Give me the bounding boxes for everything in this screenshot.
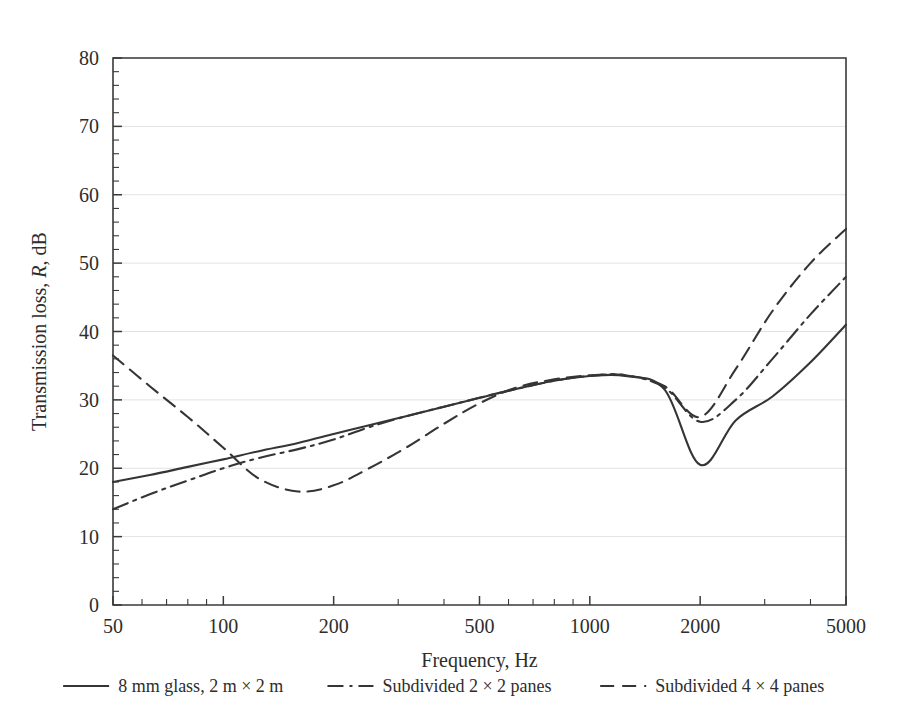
y-tick-label-10: 10 (79, 526, 99, 548)
transmission-loss-chart: 01020304050607080 5010020050010002000500… (0, 0, 902, 725)
y-tick-label-80: 80 (79, 47, 99, 69)
x-tick-label-50: 50 (103, 615, 123, 637)
x-tick-label-1000: 1000 (570, 615, 610, 637)
y-tick-label-0: 0 (89, 594, 99, 616)
y-tick-label-50: 50 (79, 252, 99, 274)
x-tick-label-200: 200 (319, 615, 349, 637)
legend-label-1: 8 mm glass, 2 m × 2 m (118, 676, 283, 696)
y-tick-label-60: 60 (79, 184, 99, 206)
x-tick-label-2000: 2000 (680, 615, 720, 637)
legend-label-2: Subdivided 2 × 2 panes (382, 676, 551, 696)
y-axis-title: Transmission loss, R, dB (28, 232, 50, 431)
y-tick-label-40: 40 (79, 321, 99, 343)
chart-legend: 8 mm glass, 2 m × 2 mSubdivided 2 × 2 pa… (63, 676, 824, 696)
x-tick-label-100: 100 (208, 615, 238, 637)
y-tick-labels: 01020304050607080 (79, 47, 99, 616)
figure-container: 01020304050607080 5010020050010002000500… (0, 0, 902, 725)
y-tick-label-20: 20 (79, 457, 99, 479)
plot-background (0, 0, 902, 725)
y-tick-label-70: 70 (79, 115, 99, 137)
x-tick-label-500: 500 (465, 615, 495, 637)
y-tick-label-30: 30 (79, 389, 99, 411)
legend-label-3: Subdivided 4 × 4 panes (655, 676, 824, 696)
x-tick-label-5000: 5000 (826, 615, 866, 637)
x-axis-title: Frequency, Hz (421, 649, 538, 672)
